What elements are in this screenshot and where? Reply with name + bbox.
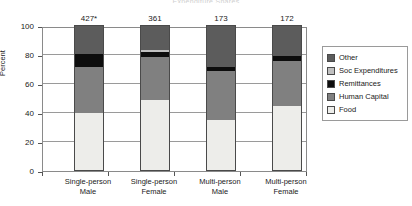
bar-segment-food[interactable] [140,100,170,171]
legend-item-label: Soc Expenditures [339,66,398,75]
bar-segment-human-capital[interactable] [206,71,236,120]
y-axis-title: Percent [0,50,7,76]
legend-item[interactable]: Human Capital [327,90,404,103]
y-tick-label: 100 [8,23,34,31]
x-tick-mark [174,172,175,176]
bar-column[interactable]: 173 [206,28,236,171]
x-tick-mark [240,172,241,176]
y-tick-label: 20 [8,139,34,147]
y-tick-label: 40 [8,110,34,118]
bar-value-label: 427* [62,14,116,23]
stacked-bar-chart-figure: Expenditure Shares Percent 020406080100 … [0,0,412,206]
legend-swatch-icon [327,106,335,114]
x-tick-mark [42,172,43,176]
bar-segment-other[interactable] [74,26,104,54]
legend-item-label: Food [339,105,356,114]
bar-stack [140,28,170,171]
bar-column[interactable]: 172 [272,28,302,171]
x-category-label-line1: Multi-person [244,177,328,187]
bar-top-cap [272,25,302,26]
bar-segment-remittances[interactable] [272,56,302,60]
x-tick-mark [108,172,109,176]
y-tick-label: 0 [8,168,34,176]
legend-item[interactable]: Soc Expenditures [327,64,404,77]
bar-stack [206,28,236,171]
chart-legend: OtherSoc ExpendituresRemittancesHuman Ca… [322,46,408,121]
bar-top-cap [140,25,170,26]
plot-area: 427*361173172 [42,27,307,172]
bar-segment-remittances[interactable] [140,52,170,57]
bar-segment-food[interactable] [272,106,302,171]
legend-item[interactable]: Other [327,51,404,64]
bar-column[interactable]: 427* [74,28,104,171]
legend-swatch-icon [327,54,335,62]
x-category-label: Multi-personFemale [244,177,328,197]
bar-segment-human-capital[interactable] [74,67,104,113]
chart-title: Expenditure Shares [0,0,412,3]
bar-segment-remittances[interactable] [206,67,236,71]
bar-segment-food[interactable] [74,113,104,171]
legend-swatch-icon [327,67,335,75]
bar-segment-food[interactable] [206,120,236,171]
legend-swatch-icon [327,80,335,88]
y-tick-label: 60 [8,81,34,89]
bar-segment-other[interactable] [272,26,302,56]
bar-top-cap [74,25,104,26]
bar-value-label: 173 [194,14,248,23]
legend-item[interactable]: Remittances [327,77,404,90]
bar-value-label: 172 [260,14,314,23]
bar-segment-soc-expenditures[interactable] [140,50,170,52]
bar-segment-other[interactable] [206,26,236,67]
y-tick-label: 80 [8,52,34,60]
bar-top-cap [206,25,236,26]
bar-column[interactable]: 361 [140,28,170,171]
bar-segment-human-capital[interactable] [140,57,170,100]
legend-item-label: Other [339,53,358,62]
bar-segment-other[interactable] [140,26,170,50]
x-tick-mark [306,172,307,176]
legend-swatch-icon [327,93,335,101]
legend-item-label: Remittances [339,79,381,88]
bar-value-label: 361 [128,14,182,23]
x-category-label-line2: Female [244,187,328,197]
bar-stack [272,28,302,171]
bar-stack [74,28,104,171]
bar-segment-human-capital[interactable] [272,61,302,107]
legend-item-label: Human Capital [339,92,389,101]
bar-segment-remittances[interactable] [74,54,104,67]
legend-item[interactable]: Food [327,103,404,116]
